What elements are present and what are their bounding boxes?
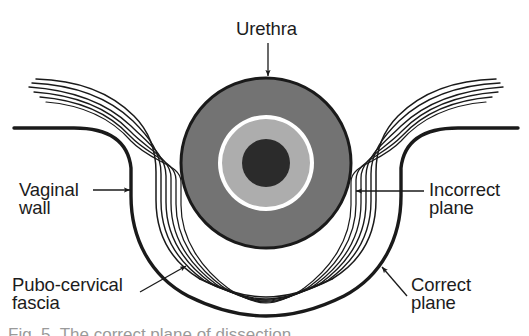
pubo-cervical-fascia-arrow — [140, 266, 186, 292]
label-pubo-cervical-fascia: Pubo-cervical fascia — [12, 276, 123, 312]
urethral-lumen — [242, 139, 290, 187]
label-urethra: Urethra — [236, 20, 297, 38]
label-correct-plane: Correct plane — [411, 276, 471, 312]
urethra-cross-section — [181, 78, 351, 248]
figure-container: Urethra Vaginal wall Pubo-cervical fasci… — [0, 0, 529, 336]
label-vaginal-wall: Vaginal wall — [19, 181, 79, 217]
pubo-cervical-fascia-bottom — [200, 279, 332, 303]
label-incorrect-plane: Incorrect plane — [429, 181, 500, 217]
correct-plane-arrow — [382, 267, 407, 296]
figure-caption: Fig. 5 The correct plane of dissection — [8, 325, 291, 336]
